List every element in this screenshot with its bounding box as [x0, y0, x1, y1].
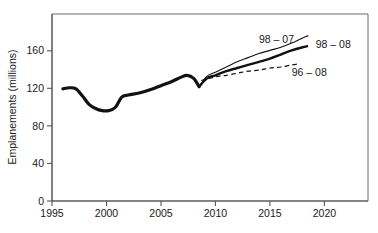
- label-96-08: 96 – 08: [292, 66, 327, 78]
- x-tick-label-2015: 2015: [258, 207, 282, 219]
- x-tick-label-1995: 1995: [40, 207, 64, 219]
- x-tick-label-2020: 2020: [313, 207, 337, 219]
- y-axis-title: Emplanements (millions): [6, 50, 18, 165]
- y-tick-label-0: 0: [38, 195, 44, 207]
- x-tick-label-2010: 2010: [204, 207, 228, 219]
- x-tick-label-2005: 2005: [149, 207, 173, 219]
- series-annotations: 98 – 07 98 – 08 96 – 08: [259, 33, 351, 78]
- y-tick-label-160: 160: [26, 44, 44, 56]
- y-tick-label-120: 120: [26, 82, 44, 94]
- x-tick-label-2000: 2000: [95, 207, 119, 219]
- chart-figure: 0 40 80 120 160 1995 2000 2005 2010 2015…: [0, 0, 378, 233]
- series-historique: [63, 75, 199, 111]
- label-98-08: 98 – 08: [316, 38, 351, 50]
- label-98-07: 98 – 07: [259, 33, 294, 45]
- emplanements-line-chart: 0 40 80 120 160 1995 2000 2005 2010 2015…: [0, 0, 378, 233]
- y-tick-label-80: 80: [32, 120, 44, 132]
- series-paths: [63, 36, 308, 111]
- y-axis-ticks: 0 40 80 120 160: [26, 44, 52, 206]
- y-tick-label-40: 40: [32, 157, 44, 169]
- x-axis-ticks: 1995 2000 2005 2010 2015 2020: [40, 201, 336, 219]
